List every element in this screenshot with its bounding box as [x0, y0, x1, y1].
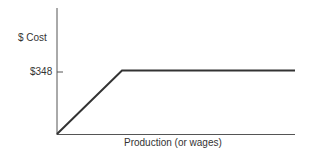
- x-axis-label: Production (or wages): [124, 137, 222, 148]
- cost-line: [57, 71, 295, 135]
- y-axis-label: $ Cost: [18, 32, 47, 43]
- y-tick-label: $348: [30, 66, 52, 77]
- chart-canvas: [0, 0, 311, 155]
